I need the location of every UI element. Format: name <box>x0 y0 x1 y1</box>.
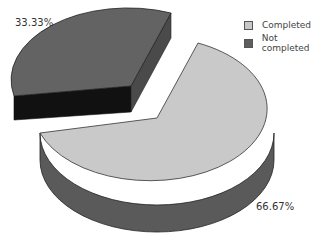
legend-item-completed: Completed <box>244 16 326 34</box>
legend-label-not-completed: Not completed <box>262 33 326 53</box>
legend-swatch-completed <box>244 21 253 30</box>
legend-label-completed: Completed <box>262 20 311 30</box>
legend: Completed Not completed <box>244 16 326 52</box>
not-completed-percent-label: 33.33% <box>15 17 53 28</box>
completed-percent-label: 66.67% <box>256 201 294 212</box>
legend-item-not-completed: Not completed <box>244 34 326 52</box>
legend-swatch-not-completed <box>244 39 253 48</box>
